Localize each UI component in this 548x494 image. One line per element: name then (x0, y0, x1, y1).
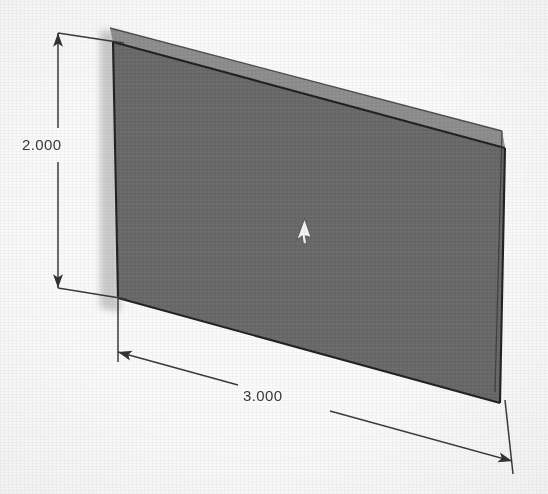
cad-scene (0, 0, 548, 494)
dimension-label-height[interactable]: 2.000 (22, 136, 62, 153)
plate-front-face (113, 42, 505, 403)
dimension-line-width-right (330, 411, 512, 461)
extension-line-right (505, 400, 513, 474)
dimension-label-width[interactable]: 3.000 (243, 387, 283, 404)
cad-viewport[interactable]: 2.000 3.000 (0, 0, 548, 494)
plate-solid[interactable] (110, 28, 505, 403)
dimension-line-width-left (118, 352, 238, 385)
